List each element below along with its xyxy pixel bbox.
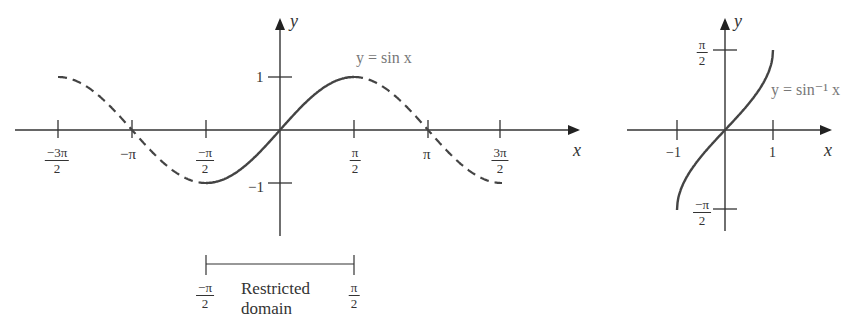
left-y-tick-1: 1 <box>256 70 264 85</box>
domain-left-label: −π 2 <box>196 281 214 310</box>
sin-curve-label: y = sin x <box>356 50 412 66</box>
x-tick-pi: π <box>423 147 431 162</box>
x-tick-neg-pi-over-2: −π 2 <box>196 146 214 175</box>
right-plot <box>627 20 830 231</box>
x-tick-pi-over-2: π 2 <box>350 146 361 175</box>
left-y-axis-label: y <box>290 12 298 30</box>
right-x-tick-neg1: −1 <box>666 146 681 160</box>
x-tick-3pi-over-2: 3π 2 <box>491 146 508 175</box>
x-tick-neg-pi: −π <box>120 147 136 162</box>
restricted-domain-bar <box>206 255 354 275</box>
left-y-tick-neg1: −1 <box>248 180 264 195</box>
x-tick-neg-3pi-over-2: −3π 2 <box>45 146 69 175</box>
right-y-tick-neg-pi-over-2: −π 2 <box>693 198 711 227</box>
right-y-axis-label: y <box>734 12 742 30</box>
right-x-tick-1: 1 <box>769 146 776 160</box>
domain-right-label: π 2 <box>349 281 360 310</box>
arcsin-curve-label: y = sin⁻¹ x <box>771 82 840 98</box>
right-x-axis-label: x <box>824 141 832 159</box>
right-y-tick-pi-over-2: π 2 <box>697 38 708 67</box>
diagram-canvas <box>0 0 864 333</box>
restricted-domain-caption: Restricted domain <box>241 279 310 318</box>
left-x-axis-label: x <box>573 141 581 159</box>
